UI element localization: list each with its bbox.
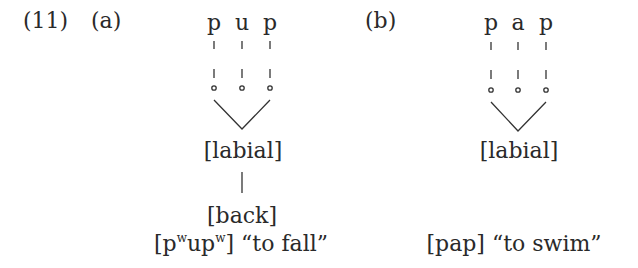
panel-a-node-2 (240, 86, 244, 90)
panel-b-node-1 (489, 88, 493, 92)
panel-b-association-lines (491, 42, 546, 79)
panel-b-gloss: [pap] “to swim” (426, 231, 601, 257)
panel-b-node-3 (544, 88, 548, 92)
panel-b-node-2 (516, 88, 520, 92)
panel-a-node-3 (268, 86, 272, 90)
panel-b-feature-labial: [labial] (480, 138, 559, 164)
panel-a-feature-back: [back] (207, 203, 277, 229)
panel-a-association-lines (214, 41, 270, 78)
tree-lines (0, 0, 638, 268)
panel-a-branch (214, 100, 270, 129)
panel-a-feature-labial: [labial] (204, 138, 283, 164)
panel-b-branch (491, 102, 546, 131)
panel-a-node-1 (212, 86, 216, 90)
panel-a-gloss: [pwupw] “to fall” (154, 231, 328, 257)
